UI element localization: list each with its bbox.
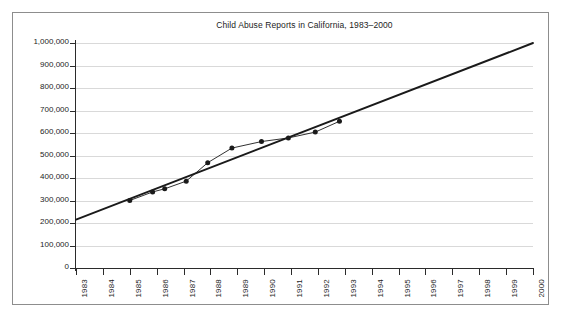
x-axis-tick [237,269,238,275]
x-axis-tick-label: 1989 [241,279,250,298]
x-axis-tick-label: 1990 [268,279,277,298]
y-axis-tick [70,246,76,247]
y-axis-tick-label: 700,000 [3,105,69,114]
y-axis-tick-label: 0 [3,262,69,271]
x-axis-tick [76,269,77,275]
gridline [76,88,533,89]
x-axis-tick-label: 1985 [134,279,143,298]
gridline [76,156,533,157]
y-axis-tick [70,223,76,224]
x-axis-tick [479,269,480,275]
gridline [76,223,533,224]
y-axis-tick [70,43,76,44]
x-axis-tick [318,269,319,275]
y-axis-tick-label: 600,000 [3,127,69,136]
gridline [76,111,533,112]
x-axis-tick-label: 1993 [349,279,358,298]
x-axis-tick [210,269,211,275]
y-axis-tick-label: 900,000 [3,60,69,69]
x-axis-tick-label: 1983 [80,279,89,298]
y-axis-tick-label: 800,000 [3,82,69,91]
chart-title: Child Abuse Reports in California, 1983–… [76,20,533,30]
x-axis-tick-label: 1999 [510,279,519,298]
gridline [76,133,533,134]
x-axis-tick-label: 1996 [429,279,438,298]
x-axis-tick-label: 1994 [376,279,385,298]
x-axis-tick [157,269,158,275]
chart-frame [12,12,549,305]
x-axis-tick [345,269,346,275]
gridline [76,66,533,67]
y-axis-tick [70,133,76,134]
x-axis-tick [399,269,400,275]
gridline [76,201,533,202]
x-axis-tick [264,269,265,275]
gridline [76,246,533,247]
y-axis-tick-label: 200,000 [3,217,69,226]
x-axis-tick-label: 1984 [107,279,116,298]
x-axis-tick [452,269,453,275]
y-axis-tick-label: 100,000 [3,240,69,249]
gridline [76,178,533,179]
x-axis-tick [506,269,507,275]
y-axis-tick-label: 1,000,000 [3,37,69,46]
chart-figure: Child Abuse Reports in California, 1983–… [0,0,565,321]
x-axis-line [76,268,534,269]
x-axis-tick-label: 1986 [161,279,170,298]
x-axis-tick-label: 1995 [403,279,412,298]
x-axis-tick-label: 1998 [483,279,492,298]
x-axis-tick [184,269,185,275]
x-axis-tick-label: 1991 [295,279,304,298]
y-axis-labels: 0100,000200,000300,000400,000500,000600,… [0,0,69,321]
x-axis-tick [130,269,131,275]
x-axis-tick [291,269,292,275]
y-axis-tick-label: 500,000 [3,150,69,159]
x-axis-tick [372,269,373,275]
x-axis-tick-label: 1992 [322,279,331,298]
y-axis-tick [70,156,76,157]
y-axis-tick [70,66,76,67]
x-axis-tick [533,269,534,275]
x-axis-tick [103,269,104,275]
y-axis-tick [70,88,76,89]
x-axis-tick [425,269,426,275]
y-axis-tick [70,201,76,202]
x-axis-tick-label: 1988 [214,279,223,298]
y-axis-tick-label: 300,000 [3,195,69,204]
y-axis-tick [70,111,76,112]
y-axis-tick [70,178,76,179]
x-axis-tick-label: 1987 [188,279,197,298]
gridline [76,43,533,44]
x-axis-tick-label: 2000 [537,279,546,298]
x-axis-tick-label: 1997 [456,279,465,298]
y-axis-tick-label: 400,000 [3,172,69,181]
